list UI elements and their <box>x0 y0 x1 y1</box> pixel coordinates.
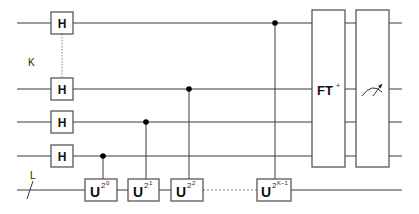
svg-text:U: U <box>133 184 143 200</box>
svg-text:U: U <box>90 184 100 200</box>
svg-text:H: H <box>58 17 67 31</box>
hadamard-gate: H <box>51 12 73 34</box>
controlled-u-gate-1: U 2 1 <box>128 179 159 201</box>
quantum-circuit-diagram: L K H H H H U 2 0 U 2 <box>0 0 419 214</box>
svg-text:U: U <box>176 184 186 200</box>
svg-text:K−1: K−1 <box>277 180 289 186</box>
svg-text:U: U <box>261 184 271 200</box>
controlled-u-gate-0: U 2 0 <box>85 179 117 201</box>
control-dot-icon <box>272 20 278 26</box>
control-dot-icon <box>100 153 106 159</box>
hadamard-gate: H <box>51 78 73 100</box>
controlled-u-gate-k: U 2 K−1 <box>257 179 291 201</box>
controlled-u-gate-2: U 2 2 <box>171 179 203 201</box>
svg-text:H: H <box>58 83 67 97</box>
hadamard-gate: H <box>51 145 73 167</box>
register-label-l: L <box>30 170 36 181</box>
hadamard-gate: H <box>51 111 73 133</box>
measurement-gate <box>356 10 389 167</box>
register-label-k: K <box>28 57 35 68</box>
svg-text:H: H <box>58 150 67 164</box>
svg-text:FT: FT <box>317 83 333 98</box>
svg-text:H: H <box>58 116 67 130</box>
inverse-qft-gate: FT + <box>312 10 345 167</box>
control-dot-icon <box>143 119 149 125</box>
control-dot-icon <box>186 86 192 92</box>
svg-text:+: + <box>336 82 340 89</box>
